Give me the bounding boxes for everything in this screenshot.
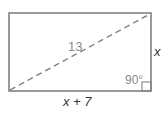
bottom-side-label: x + 7 bbox=[63, 95, 92, 108]
right-angle-marker bbox=[142, 82, 151, 91]
diagonal-label: 13 bbox=[68, 40, 82, 53]
angle-label: 90° bbox=[125, 74, 143, 86]
right-side-label: x bbox=[154, 45, 161, 58]
